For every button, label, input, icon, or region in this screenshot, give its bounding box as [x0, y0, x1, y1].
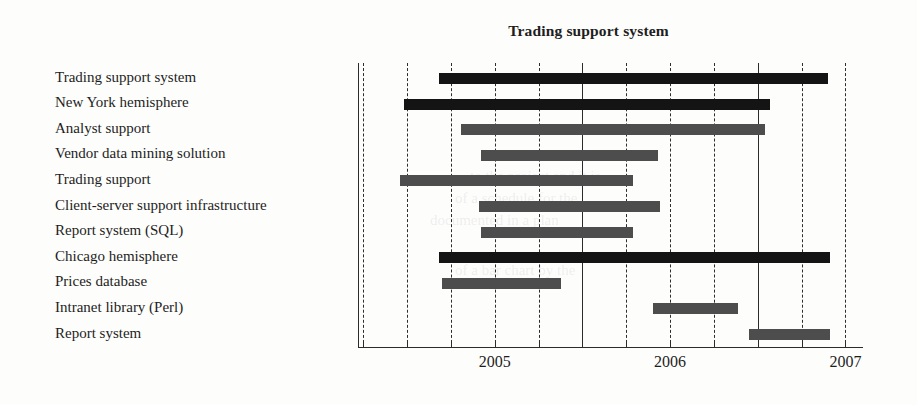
- x-axis-tick: [714, 340, 715, 348]
- task-label-text: Client-server support infrastructure: [55, 198, 267, 213]
- task-label-column: Trading support systemNew York hemispher…: [0, 63, 350, 348]
- x-axis-tick: [802, 340, 803, 348]
- gantt-bar[interactable]: [439, 252, 830, 263]
- task-label-text: Report system (SQL): [55, 223, 183, 238]
- task-label-text: New York hemisphere: [55, 95, 189, 110]
- gantt-bar[interactable]: [481, 150, 658, 161]
- x-axis-tick: [582, 340, 583, 348]
- task-label-text: Intranet library (Perl): [55, 300, 183, 315]
- task-label: Trading support system: [55, 70, 342, 85]
- gantt-bar[interactable]: [653, 303, 739, 314]
- x-axis-line: [358, 347, 863, 348]
- x-axis-year-label: 2006: [654, 352, 686, 372]
- task-label: Prices database: [55, 274, 342, 289]
- task-label-text: Trading support: [55, 172, 151, 187]
- x-axis-tick: [495, 340, 496, 348]
- task-label: Analyst support: [55, 121, 342, 136]
- gridline-quarter: [363, 63, 364, 348]
- task-label: Report system (SQL): [55, 223, 342, 238]
- y-axis-line: [358, 63, 359, 348]
- x-axis-year-label: 2005: [479, 352, 511, 372]
- task-label-text: Prices database: [55, 274, 147, 289]
- gridline-quarter: [845, 63, 846, 348]
- x-axis-tick: [758, 340, 759, 348]
- x-axis-tick: [363, 340, 364, 348]
- gantt-bar[interactable]: [479, 201, 660, 212]
- task-label: New York hemisphere: [55, 95, 342, 110]
- x-axis-tick: [845, 340, 846, 348]
- chart-title: Trading support system: [0, 22, 917, 40]
- task-label-text: Trading support system: [55, 70, 196, 85]
- gantt-bar[interactable]: [481, 227, 634, 238]
- x-axis-year-label: 2007: [829, 352, 861, 372]
- task-label-text: Chicago hemisphere: [55, 249, 178, 264]
- x-axis-tick: [539, 340, 540, 348]
- gridline-quarter: [802, 63, 803, 348]
- task-label-text: Vendor data mining solution: [55, 146, 225, 161]
- gantt-bar[interactable]: [439, 73, 828, 84]
- task-label: Report system: [55, 326, 342, 341]
- x-axis-tick: [451, 340, 452, 348]
- gantt-bar[interactable]: [442, 278, 561, 289]
- task-label-text: Analyst support: [55, 121, 150, 136]
- x-axis-tick-label-row: 200520062007: [358, 352, 878, 378]
- gantt-bar[interactable]: [461, 124, 764, 135]
- task-label-text: Report system: [55, 326, 141, 341]
- task-label: Chicago hemisphere: [55, 249, 342, 264]
- task-label: Client-server support infrastructure: [55, 198, 342, 213]
- gantt-bar[interactable]: [400, 175, 633, 186]
- task-label: Trading support: [55, 172, 342, 187]
- x-axis-tick: [626, 340, 627, 348]
- x-axis-tick: [670, 340, 671, 348]
- gantt-bar[interactable]: [404, 99, 770, 110]
- gantt-plot-area: [358, 63, 863, 348]
- gantt-bar[interactable]: [749, 329, 830, 340]
- x-axis-tick: [407, 340, 408, 348]
- task-label: Vendor data mining solution: [55, 146, 342, 161]
- task-label: Intranet library (Perl): [55, 300, 342, 315]
